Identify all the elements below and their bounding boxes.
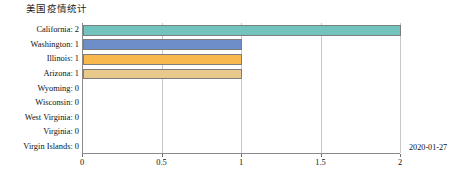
x-tick-label: 0 [80,158,84,167]
y-axis-label: Arizona: 1 [0,69,79,78]
x-tick-mark [241,154,242,157]
bar [83,69,242,80]
gridline [400,23,401,153]
plot-area [82,23,400,154]
x-tick-mark [400,154,401,157]
bars-layer [83,23,400,153]
y-axis-label: Illinois: 1 [0,54,79,63]
x-tick-label: 1.5 [315,158,325,167]
date-annotation: 2020-01-27 [409,143,447,152]
y-axis-labels: California: 2Washington: 1Illinois: 1Ari… [0,23,79,154]
bar [83,25,401,36]
chart-title: 美国疫情统计 [26,1,88,15]
x-tick-label: 0.5 [156,158,166,167]
bar [83,39,242,50]
y-axis-label: Washington: 1 [0,40,79,49]
y-axis-label: Virgin Islands: 0 [0,142,79,151]
y-axis-label: West Virginia: 0 [0,113,79,122]
y-axis-label: Virginia: 0 [0,127,79,136]
x-tick-label: 2 [398,158,402,167]
y-axis-label: Wyoming: 0 [0,84,79,93]
bar-chart: 美国疫情统计 California: 2Washington: 1Illinoi… [0,0,461,179]
x-tick-mark [162,154,163,157]
x-axis-ticks: 00.511.52 [82,154,400,170]
y-axis-label: California: 2 [0,25,79,34]
x-tick-label: 1 [239,158,243,167]
bar [83,54,242,65]
y-axis-label: Wisconsin: 0 [0,98,79,107]
x-tick-mark [82,154,83,157]
x-tick-mark [321,154,322,157]
